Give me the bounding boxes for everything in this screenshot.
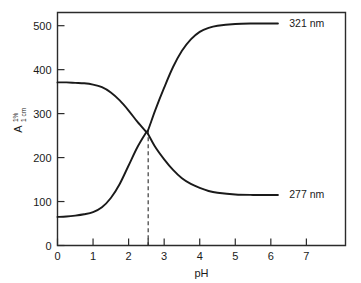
series-curve-321-nm xyxy=(58,23,278,216)
y-axis-tick-label: 200 xyxy=(33,152,51,164)
y-axis-tick-label: 0 xyxy=(45,240,51,252)
series-curve-277-nm xyxy=(58,82,278,195)
chart-figure: 010020030040050001234567pHA1%1 cm321 nm2… xyxy=(0,0,361,283)
x-axis-tick-label: 1 xyxy=(90,250,96,262)
y-axis-title-subscript: 1 cm xyxy=(20,108,27,122)
y-axis-title-symbol: A xyxy=(12,125,24,133)
ph-absorbance-chart: 010020030040050001234567pHA1%1 cm321 nm2… xyxy=(0,0,361,283)
x-axis-tick-label: 6 xyxy=(268,250,274,262)
x-axis-tick-label: 5 xyxy=(232,250,238,262)
y-axis-tick-label: 300 xyxy=(33,108,51,120)
y-axis-tick-label: 500 xyxy=(33,20,51,32)
y-axis-tick-label: 400 xyxy=(33,64,51,76)
x-axis-tick-label: 2 xyxy=(126,250,132,262)
plot-frame xyxy=(58,13,346,246)
x-axis-title: pH xyxy=(194,267,208,279)
y-axis-tick-label: 100 xyxy=(33,196,51,208)
y-axis-title-superscript: 1% xyxy=(12,112,19,122)
x-axis-tick-label: 4 xyxy=(197,250,203,262)
x-axis-tick-label: 0 xyxy=(54,250,60,262)
x-axis-tick-label: 3 xyxy=(161,250,167,262)
series-label-321-nm: 321 nm xyxy=(289,17,324,29)
series-label-277-nm: 277 nm xyxy=(289,188,324,200)
x-axis-tick-label: 7 xyxy=(303,250,309,262)
y-axis-title: A1%1 cm xyxy=(12,108,27,133)
